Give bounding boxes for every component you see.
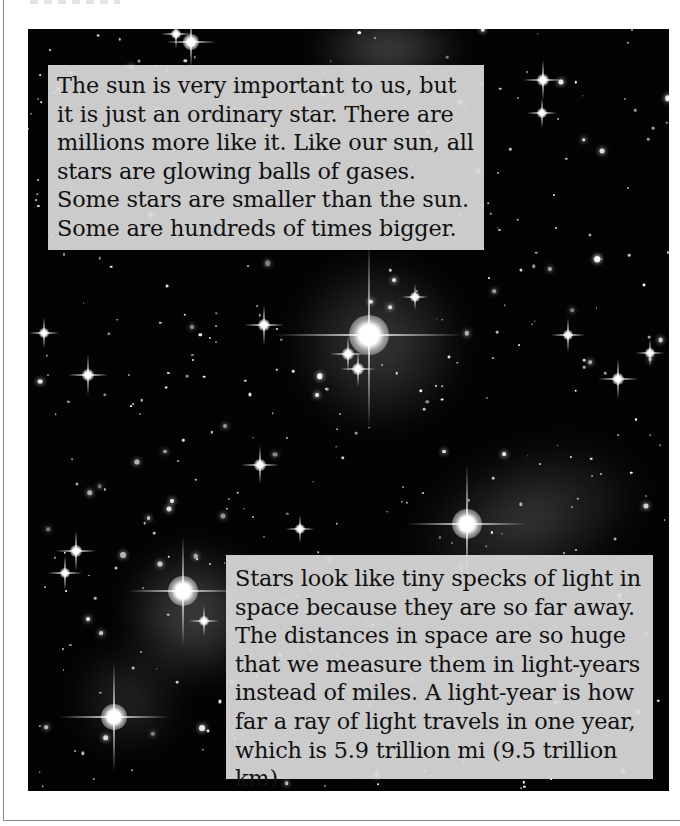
star <box>369 300 373 304</box>
star <box>647 138 650 141</box>
star <box>628 254 631 257</box>
star <box>341 456 344 459</box>
star <box>38 379 43 384</box>
star <box>330 60 332 62</box>
star <box>63 253 65 255</box>
star <box>591 475 593 477</box>
bright-star <box>274 240 464 430</box>
star <box>599 149 604 154</box>
star <box>211 431 213 433</box>
star <box>441 385 443 387</box>
star <box>419 389 422 392</box>
star <box>487 203 489 205</box>
star <box>558 79 563 84</box>
star <box>395 372 398 375</box>
star <box>617 434 619 436</box>
star <box>491 531 493 533</box>
star <box>336 428 338 430</box>
star <box>220 513 225 518</box>
star <box>401 501 403 503</box>
star <box>583 366 586 369</box>
star <box>520 268 523 271</box>
star <box>272 412 274 414</box>
star <box>381 364 383 366</box>
bright-star <box>48 556 82 590</box>
star <box>157 561 162 566</box>
star <box>537 33 539 35</box>
star <box>660 444 662 446</box>
star <box>664 520 666 522</box>
star <box>457 362 459 364</box>
star <box>499 87 502 90</box>
star <box>93 777 95 779</box>
caption-box-light-years: Stars look like tiny specks of light in … <box>226 555 653 779</box>
star <box>486 397 488 399</box>
star <box>203 375 206 378</box>
star <box>83 302 85 304</box>
star <box>646 495 648 497</box>
star <box>223 424 227 428</box>
star <box>565 158 567 160</box>
star <box>74 750 76 752</box>
star <box>88 575 90 577</box>
bright-star <box>636 339 664 367</box>
nebula-glow <box>68 639 188 759</box>
star <box>153 532 156 535</box>
star <box>535 251 538 254</box>
star <box>596 256 600 260</box>
star <box>128 374 130 376</box>
star <box>170 499 174 503</box>
star <box>81 752 84 755</box>
star <box>116 319 118 321</box>
star <box>317 551 319 553</box>
star <box>553 194 555 196</box>
star <box>416 290 418 292</box>
caption-text-sun: The sun is very important to us, but it … <box>57 71 476 243</box>
star <box>139 413 141 415</box>
star <box>107 332 110 335</box>
star <box>644 503 649 508</box>
star <box>86 375 89 378</box>
star <box>202 749 204 751</box>
star <box>643 283 646 286</box>
star <box>624 98 626 100</box>
star <box>131 770 133 772</box>
star <box>66 590 68 592</box>
star <box>339 413 341 415</box>
star <box>613 538 616 541</box>
star <box>44 586 46 588</box>
star <box>272 452 277 457</box>
star <box>37 98 39 100</box>
star <box>588 360 592 364</box>
star <box>386 511 388 513</box>
star <box>138 60 141 63</box>
star <box>657 700 660 703</box>
star <box>226 507 228 509</box>
star <box>167 372 169 374</box>
star <box>467 499 469 501</box>
star <box>368 427 370 429</box>
star <box>666 122 668 124</box>
star <box>151 731 155 735</box>
star <box>64 551 66 553</box>
star <box>335 523 337 525</box>
star <box>193 554 198 559</box>
bright-star <box>551 318 585 352</box>
star <box>159 322 161 324</box>
bright-star <box>286 515 314 543</box>
caption-box-sun: The sun is very important to us, but it … <box>48 65 484 250</box>
star <box>315 393 319 397</box>
star <box>184 59 187 62</box>
star <box>46 527 50 531</box>
star <box>635 418 637 420</box>
star <box>502 452 506 456</box>
star <box>276 327 278 329</box>
star <box>194 56 196 58</box>
star <box>627 41 629 43</box>
star <box>99 692 101 694</box>
star <box>252 437 254 439</box>
star <box>218 700 221 703</box>
star <box>140 651 142 653</box>
star <box>31 113 33 115</box>
star <box>119 38 122 41</box>
